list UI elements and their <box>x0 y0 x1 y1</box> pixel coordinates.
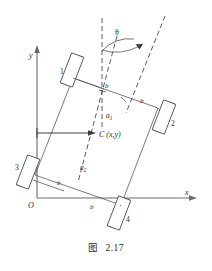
wheel-4-label: 4 <box>126 215 130 224</box>
chassis-edge-right <box>121 108 158 205</box>
b-label-top: b <box>105 82 109 90</box>
b-label-left: b <box>57 179 61 187</box>
theta-arrowhead <box>136 44 143 50</box>
wheel-2 <box>152 100 176 135</box>
a1-subscript: 1 <box>110 115 113 121</box>
a2-subscript: 2 <box>84 167 87 173</box>
wheel-1 <box>60 53 104 89</box>
b-label-right: b <box>140 97 144 105</box>
vehicle-kinematics-diagram: θ 1 2 3 4 C (x,y) <box>0 0 212 271</box>
wheel-2-label: 2 <box>171 119 175 128</box>
heading-direction-axis <box>126 16 165 113</box>
wheel-4 <box>107 196 131 231</box>
figure-caption: 图2.17 <box>0 240 212 254</box>
origin-label: O <box>28 201 34 210</box>
x-axis-label: x <box>184 188 189 197</box>
wheel-2-body <box>152 100 176 135</box>
a1-label: a1 <box>106 111 113 121</box>
wheel-1-label: 1 <box>60 67 64 76</box>
wheel-1-connector <box>73 78 104 89</box>
a2-label: a2 <box>80 163 87 173</box>
center-position-arrow <box>37 128 96 138</box>
b-label-bottom: b <box>90 203 94 211</box>
caption-number: 2.17 <box>105 243 124 253</box>
caption-label: 图 <box>88 243 99 253</box>
theta-angle-arc <box>102 39 143 53</box>
y-axis-label: y <box>28 51 33 60</box>
theta-arc-curve <box>102 46 140 52</box>
figure-container: θ 1 2 3 4 C (x,y) <box>0 0 212 271</box>
x-axis-arrowhead <box>189 195 197 201</box>
y-axis-arrowhead <box>34 45 40 53</box>
center-point-label: C (x,y) <box>99 130 121 139</box>
theta-label: θ <box>115 28 119 37</box>
chassis-edge-bottom <box>35 175 121 205</box>
chassis-edge-left <box>35 78 73 175</box>
tick-mark-mid <box>121 97 126 102</box>
wheel-4-body <box>107 196 131 231</box>
wheel-3-label: 3 <box>15 163 19 172</box>
theta-arc-path <box>102 39 134 51</box>
heading-dashed-line <box>126 16 165 113</box>
